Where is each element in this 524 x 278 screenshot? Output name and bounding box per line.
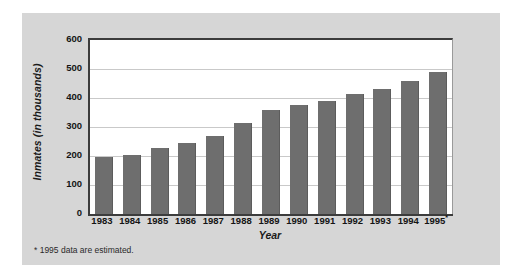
bar-1986	[178, 143, 196, 214]
x-axis-tick-labels: 1983198419851986198719881989199019911992…	[88, 215, 452, 229]
y-axis-title: Inmates (in thousands)	[28, 42, 46, 202]
x-axis-tick-1988: 1988	[227, 215, 255, 226]
y-axis-tick-400: 400	[66, 91, 82, 102]
bar-1985	[151, 148, 169, 214]
x-axis-tick-1991: 1991	[311, 215, 339, 226]
y-axis-title-text: Inmates (in thousands)	[31, 63, 43, 180]
x-axis-tick-1994: 1994	[394, 215, 422, 226]
estimate-footnote: * 1995 data are estimated.	[34, 245, 134, 255]
y-axis-tick-0: 0	[77, 207, 82, 218]
x-axis-tick-1987: 1987	[199, 215, 227, 226]
chart-figure: Inmates (in thousands) 01002003004005006…	[0, 0, 524, 278]
bar-1994	[401, 81, 419, 214]
y-axis-tick-600: 600	[66, 33, 82, 44]
plot-area	[88, 38, 453, 214]
bar-1989	[262, 110, 280, 214]
bar-1988	[234, 123, 252, 214]
bar-1992	[346, 94, 364, 214]
x-axis-tick-1984: 1984	[116, 215, 144, 226]
y-axis-tick-300: 300	[66, 120, 82, 131]
x-axis-tick-1992: 1992	[339, 215, 367, 226]
bar-1984	[123, 155, 141, 214]
y-axis-tick-labels: 0100200300400500600	[46, 30, 86, 220]
x-axis-tick-1986: 1986	[172, 215, 200, 226]
y-axis-tick-500: 500	[66, 62, 82, 73]
estimate-asterisk: *	[445, 214, 448, 221]
x-axis-tick-1995: 1995*	[422, 215, 450, 226]
x-axis-tick-1983: 1983	[88, 215, 116, 226]
bar-1983	[95, 157, 113, 214]
bar-1995	[429, 72, 447, 214]
x-axis-tick-1990: 1990	[283, 215, 311, 226]
x-axis-tick-1985: 1985	[144, 215, 172, 226]
bar-series	[90, 40, 452, 214]
bar-1993	[373, 89, 391, 214]
x-axis-title: Year	[88, 229, 452, 241]
x-axis-tick-1989: 1989	[255, 215, 283, 226]
x-axis-tick-1993: 1993	[366, 215, 394, 226]
y-axis-tick-200: 200	[66, 149, 82, 160]
y-axis-tick-100: 100	[66, 178, 82, 189]
bar-1987	[206, 136, 224, 214]
bar-1991	[318, 101, 336, 214]
bar-1990	[290, 105, 308, 214]
